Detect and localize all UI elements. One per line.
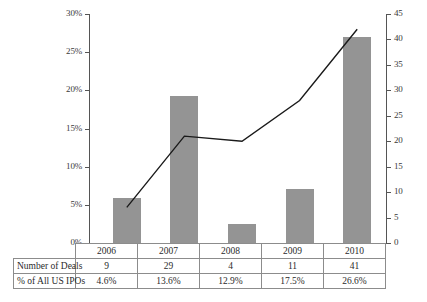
table-corner-cell — [14, 244, 76, 259]
table-column-header-2008: 2008 — [200, 244, 262, 259]
table-row: % of All US IPOs4.6%13.6%12.9%17.5%26.6% — [14, 274, 386, 289]
table-cell: 4 — [200, 259, 262, 274]
table-cell: 13.6% — [138, 274, 200, 289]
table-row: Number of Deals92941141 — [14, 259, 386, 274]
data-table: 20062007200820092010Number of Deals92941… — [13, 243, 386, 289]
table-column-header-2010: 2010 — [324, 244, 386, 259]
table-cell: 26.6% — [324, 274, 386, 289]
table-cell: 11 — [262, 259, 324, 274]
deals-line-path — [127, 29, 357, 207]
plot-area: 0%5%10%15%20%25%30%051015202530354045 — [0, 0, 427, 248]
table-column-header-2009: 2009 — [262, 244, 324, 259]
table-cell: 12.9% — [200, 274, 262, 289]
table-header-row: 20062007200820092010 — [14, 244, 386, 259]
table-row-label: Number of Deals — [14, 259, 76, 274]
table-column-header-2006: 2006 — [76, 244, 138, 259]
table-cell: 9 — [76, 259, 138, 274]
deals-line-series — [0, 0, 427, 248]
table-cell: 17.5% — [262, 274, 324, 289]
table-cell: 41 — [324, 259, 386, 274]
table-column-header-2007: 2007 — [138, 244, 200, 259]
chart-page: 0%5%10%15%20%25%30%051015202530354045 20… — [0, 0, 427, 302]
table-cell: 29 — [138, 259, 200, 274]
table-body: 20062007200820092010Number of Deals92941… — [14, 244, 386, 289]
table-row-label: % of All US IPOs — [14, 274, 76, 289]
